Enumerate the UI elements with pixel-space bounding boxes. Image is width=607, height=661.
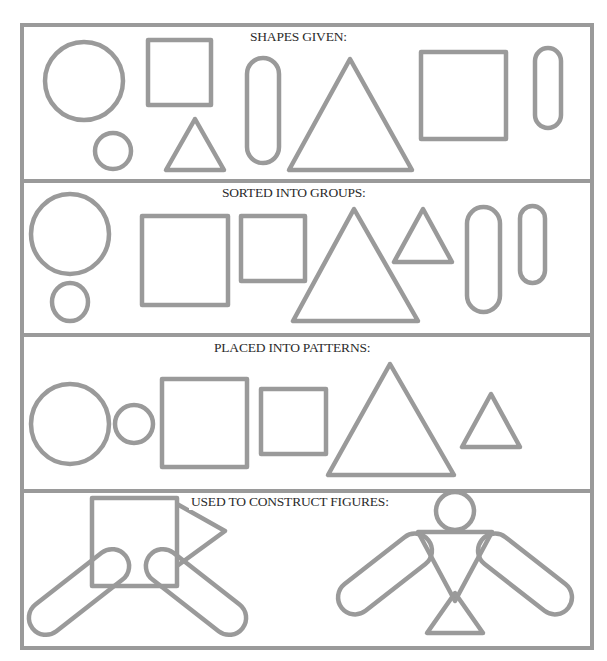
- large-oval-shape: [247, 58, 279, 163]
- panel-title-patterns: PLACED INTO PATTERNS:: [214, 340, 370, 356]
- panel-figures: [22, 492, 579, 642]
- head-circle-shape: [436, 492, 474, 530]
- panel-patterns: [31, 364, 520, 475]
- large-circle-shape: [31, 194, 109, 274]
- panel-title-shapes-given: SHAPES GIVEN:: [250, 29, 347, 45]
- small-square-shape: [148, 40, 211, 105]
- large-square-shape: [421, 52, 506, 139]
- shapes-diagram: [0, 0, 607, 661]
- panel-shapes-given: [45, 40, 561, 170]
- large-triangle-shape: [328, 364, 454, 475]
- small-oval-shape: [535, 48, 561, 128]
- head-triangle-shape: [177, 504, 225, 566]
- small-triangle-shape: [394, 209, 452, 262]
- large-square-shape: [162, 379, 247, 467]
- large-triangle-shape: [293, 209, 418, 321]
- body-square-shape: [92, 498, 177, 586]
- large-square-shape: [142, 216, 228, 305]
- small-circle-shape: [115, 405, 153, 443]
- creature-figure: [22, 498, 253, 642]
- small-triangle-shape: [462, 394, 520, 447]
- right-leg-oval-shape: [139, 542, 253, 641]
- small-oval-shape: [520, 206, 545, 283]
- large-oval-shape: [467, 207, 500, 312]
- small-circle-shape: [52, 283, 88, 321]
- small-triangle-shape: [166, 119, 224, 170]
- left-leg-oval-shape: [22, 542, 136, 641]
- large-circle-shape: [45, 42, 123, 120]
- person-figure: [331, 492, 579, 633]
- large-triangle-shape: [289, 59, 412, 170]
- panel-title-sorted-groups: SORTED INTO GROUPS:: [222, 185, 366, 201]
- panel-title-figures: USED TO CONSTRUCT FIGURES:: [189, 494, 391, 510]
- small-circle-shape: [95, 133, 131, 169]
- panel-sorted-groups: [31, 194, 545, 321]
- small-square-shape: [261, 389, 326, 454]
- large-circle-shape: [31, 384, 109, 464]
- small-square-shape: [241, 216, 305, 281]
